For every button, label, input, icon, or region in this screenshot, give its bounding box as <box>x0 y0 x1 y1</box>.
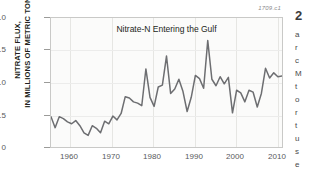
plot-area <box>50 17 283 148</box>
y-tick-label-0-5: 0.5 <box>0 111 6 120</box>
adjacent-text-fragment: M <box>295 69 302 78</box>
figure-id-label: 1709.c1 <box>258 5 281 11</box>
x-tick-label-1990: 1990 <box>185 152 203 161</box>
adjacent-text-column: 2 a r c M t o r t u s e <box>293 0 316 179</box>
y-tick-label-0: 0 <box>2 143 6 152</box>
y-axis-title-line2: IN MILLIONS OF METRIC TONS <box>23 0 33 125</box>
adjacent-heading-fragment: 2 <box>295 8 302 23</box>
adjacent-text-fragment: a <box>295 30 299 39</box>
nitrate-flux-figure: 1709.c1 2.0 1.5 1.0 0.5 0 NITRATE FLUX, … <box>0 0 293 179</box>
nitrate-flux-line-series <box>51 18 282 147</box>
adjacent-text-fragment: r <box>295 108 298 117</box>
y-tick-label-1-5: 1.5 <box>0 45 6 54</box>
adjacent-text-fragment: s <box>295 147 299 156</box>
y-tick-label-1-0: 1.0 <box>0 78 6 87</box>
x-tick-label-2010: 2010 <box>268 152 286 161</box>
y-tick-label-2-0: 2.0 <box>0 13 6 22</box>
x-tick-label-2000: 2000 <box>226 152 244 161</box>
chart-title: Nitrate-N Entering the Gulf <box>50 24 283 34</box>
adjacent-text-fragment: t <box>295 82 297 91</box>
adjacent-text-fragment: c <box>295 56 299 65</box>
x-tick-label-1970: 1970 <box>102 152 120 161</box>
y-axis-title: NITRATE FLUX, IN MILLIONS OF METRIC TONS <box>13 0 33 125</box>
adjacent-text-fragment: o <box>295 95 299 104</box>
adjacent-text-fragment: u <box>295 134 299 143</box>
adjacent-text-fragment: t <box>295 121 297 130</box>
adjacent-text-fragment: r <box>295 43 298 52</box>
adjacent-text-fragment: e <box>295 160 299 169</box>
y-axis-title-line1: NITRATE FLUX, <box>13 0 23 125</box>
x-tick-label-1980: 1980 <box>143 152 161 161</box>
figure-page: 1709.c1 2.0 1.5 1.0 0.5 0 NITRATE FLUX, … <box>0 0 316 179</box>
x-tick-label-1960: 1960 <box>60 152 78 161</box>
